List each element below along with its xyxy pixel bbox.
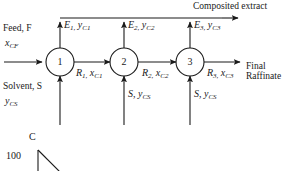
raffinate-label-stage-2: R2, xC2	[142, 68, 168, 79]
raffinate-composition-subscript-1: C1	[94, 72, 102, 80]
stage-number-1: 1	[52, 56, 68, 67]
final-raffinate-label: Final Raffinate	[246, 62, 281, 82]
final-raffinate-line-2: Raffinate	[246, 72, 281, 82]
solvent-inlet-label-stage-2: S, yCS	[128, 89, 151, 100]
solvent-inlet-symbol-3: S,	[194, 88, 202, 99]
ternary-axis-value-100: 100	[6, 150, 21, 161]
extraction-flowsheet-figure: Composited extract Feed, F xCF Solvent, …	[0, 0, 287, 171]
extract-label-stage-3: E3, yC3	[194, 20, 220, 31]
raffinate-composition-subscript-3: C3	[225, 72, 233, 80]
ternary-hypotenuse	[38, 150, 70, 171]
solvent-label: Solvent, S	[3, 82, 42, 92]
solvent-inlet-symbol-2: S,	[128, 88, 136, 99]
raffinate-label-stage-3: R3, xC3	[207, 68, 233, 79]
solvent-inlet-composition-subscript-3: CS	[208, 93, 216, 101]
solvent-composition-label: yCS	[5, 96, 18, 107]
composited-extract-label: Composited extract	[193, 2, 267, 12]
raffinate-subscript-2: 2,	[148, 72, 153, 80]
solvent-inlet-composition-subscript-2: CS	[142, 93, 150, 101]
raffinate-subscript-3: 3,	[213, 72, 218, 80]
extract-composition-subscript-1: C1	[82, 24, 90, 32]
extract-subscript-3: 3,	[200, 24, 205, 32]
extract-subscript-1: 1,	[70, 24, 75, 32]
extract-composition-subscript-3: C3	[212, 24, 220, 32]
feed-label: Feed, F	[3, 24, 32, 34]
solvent-composition-subscript: CS	[9, 100, 17, 108]
solvent-inlet-label-stage-3: S, yCS	[194, 89, 217, 100]
extract-label-stage-1: E1, yC1	[64, 20, 90, 31]
extract-subscript-2: 2,	[134, 24, 139, 32]
extract-label-stage-2: E2, yC2	[128, 20, 154, 31]
stage-number-2: 2	[116, 56, 132, 67]
ternary-apex-label-c: C	[29, 131, 36, 142]
raffinate-composition-subscript-2: C2	[160, 72, 168, 80]
feed-composition-subscript: CF	[9, 42, 18, 50]
extract-composition-subscript-2: C2	[146, 24, 154, 32]
raffinate-label-stage-1: R1, xC1	[76, 68, 102, 79]
feed-composition-label: xCF	[5, 38, 18, 49]
stage-number-3: 3	[182, 56, 198, 67]
raffinate-subscript-1: 1,	[82, 72, 87, 80]
